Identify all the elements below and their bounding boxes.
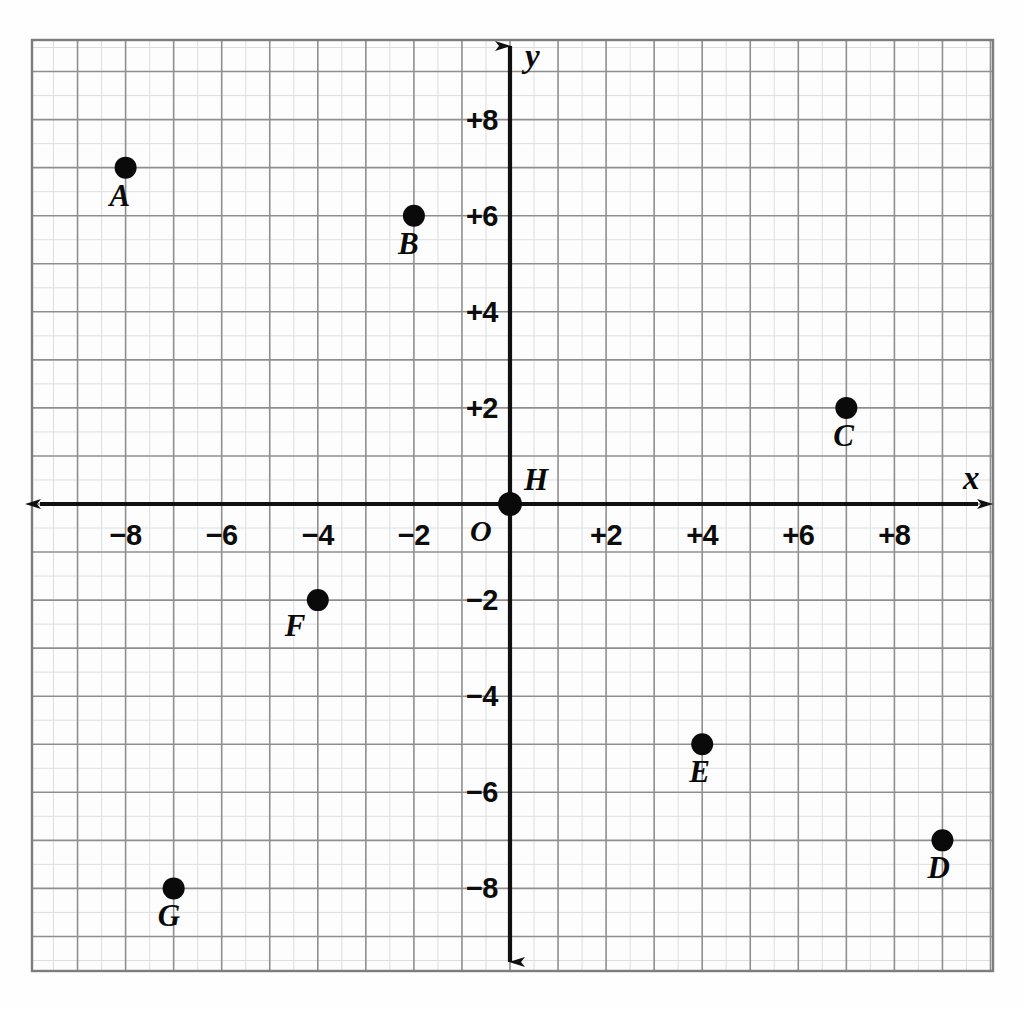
y-tick-label: −6 [466,778,498,807]
data-point [403,205,425,227]
point-label: F [285,610,306,641]
y-tick-label: +6 [466,201,498,230]
point-label: G [158,900,180,931]
x-tick-label: −6 [206,521,238,550]
x-tick-label: −2 [398,521,430,550]
x-tick-label: +8 [878,521,910,550]
y-tick-label: −8 [466,874,498,903]
x-tick-label: −8 [110,521,142,550]
data-point [498,492,522,516]
data-point [163,877,185,899]
point-label: C [833,420,854,451]
data-point [307,589,329,611]
y-tick-label: −2 [466,586,498,615]
point-label: H [524,464,548,495]
coordinate-plane-figure: −8−6−4−2O+2+4+6+8+8+6+4+2−2−4−6−8 ABCDEF… [0,0,1025,1009]
x-tick-label: +2 [590,521,622,550]
y-tick-label: −4 [466,682,498,711]
y-tick-label: +8 [466,105,498,134]
point-label: B [398,228,419,259]
point-label: D [927,852,949,883]
point-label: E [689,756,710,787]
x-tick-label: −4 [302,521,334,550]
x-axis-label: x [963,462,980,495]
data-point [835,397,857,419]
point-label: A [110,180,131,211]
y-tick-label: +4 [466,297,498,326]
origin-label: O [470,516,492,546]
y-tick-label: +2 [466,393,498,422]
x-tick-label: +4 [686,521,718,550]
data-point [691,733,713,755]
data-point [115,157,137,179]
x-tick-label: +6 [782,521,814,550]
data-point [931,829,953,851]
coordinate-grid-svg [0,0,1025,1009]
y-axis-label: y [525,40,540,73]
